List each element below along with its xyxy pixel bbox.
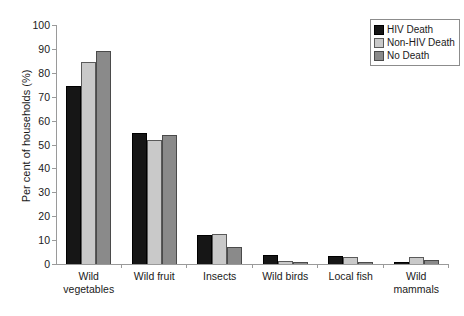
y-tick-70: 70 [22, 91, 56, 103]
x-tick-mark [121, 264, 122, 268]
bar-group-insects [187, 25, 253, 264]
x-label-line2: mammals [384, 283, 450, 296]
legend-swatch-icon [374, 38, 384, 48]
y-tick-40: 40 [22, 162, 56, 174]
x-tick-mark [317, 264, 318, 268]
bar-hiv-death-wild-birds [263, 255, 278, 264]
x-label-wild-vegetables: Wildvegetables [56, 270, 122, 295]
bar-chart: Per cent of households (%) 1009080706050… [0, 0, 464, 316]
y-tick-20: 20 [22, 210, 56, 222]
y-tick-100: 100 [22, 19, 56, 31]
bar-no-death-insects [227, 247, 242, 264]
x-axis-line [56, 264, 449, 265]
bar-group-wild-vegetables [56, 25, 122, 264]
bar-non-hiv-death-wild-vegetables [81, 62, 96, 264]
legend-label: Non-HIV Death [387, 37, 455, 48]
legend-item-hiv-death[interactable]: HIV Death [374, 23, 455, 36]
bar-hiv-death-local-fish [328, 256, 343, 264]
x-tick-mark [383, 264, 384, 268]
x-axis-labels: WildvegetablesWild fruitInsectsWild bird… [56, 270, 449, 295]
x-label-line1: Insects [203, 270, 236, 282]
x-label-local-fish: Local fish [318, 270, 384, 295]
bar-no-death-wild-vegetables [96, 51, 111, 264]
legend-item-no-death[interactable]: No Death [374, 49, 455, 62]
x-label-insects: Insects [187, 270, 253, 295]
legend-item-non-hiv-death[interactable]: Non-HIV Death [374, 36, 455, 49]
legend-swatch-icon [374, 25, 384, 35]
legend-swatch-icon [374, 51, 384, 61]
legend-label: HIV Death [387, 24, 433, 35]
y-tick-90: 90 [22, 43, 56, 55]
y-tick-10: 10 [22, 234, 56, 246]
x-label-line1: Wild birds [262, 270, 308, 282]
bar-no-death-wild-mammals [424, 260, 439, 264]
bar-group-wild-birds [253, 25, 319, 264]
bar-non-hiv-death-local-fish [343, 257, 358, 264]
bar-hiv-death-wild-mammals [394, 262, 409, 264]
bar-hiv-death-insects [197, 235, 212, 264]
x-tick-mark [186, 264, 187, 268]
bar-non-hiv-death-wild-birds [278, 261, 293, 264]
x-tick-mark [252, 264, 253, 268]
y-tick-60: 60 [22, 115, 56, 127]
bar-non-hiv-death-wild-fruit [147, 140, 162, 264]
x-label-wild-fruit: Wild fruit [122, 270, 188, 295]
bar-no-death-wild-fruit [162, 135, 177, 264]
bar-hiv-death-wild-fruit [132, 133, 147, 264]
bar-group-wild-fruit [122, 25, 188, 264]
x-label-line1: Wild [406, 270, 426, 282]
x-label-line1: Wild [79, 270, 99, 282]
bar-no-death-local-fish [358, 262, 373, 264]
x-label-line1: Local fish [329, 270, 373, 282]
x-label-line2: vegetables [56, 283, 122, 296]
bar-non-hiv-death-wild-mammals [409, 257, 424, 264]
y-tick-80: 80 [22, 67, 56, 79]
x-tick-mark [448, 264, 449, 268]
bar-hiv-death-wild-vegetables [66, 86, 81, 264]
bar-non-hiv-death-insects [212, 234, 227, 264]
y-tick-mark [52, 264, 56, 265]
y-tick-0: 0 [22, 258, 56, 270]
legend-label: No Death [387, 50, 429, 61]
chart-legend: HIV DeathNon-HIV DeathNo Death [370, 19, 460, 66]
x-label-wild-mammals: Wildmammals [384, 270, 450, 295]
x-label-wild-birds: Wild birds [253, 270, 319, 295]
y-tick-50: 50 [22, 139, 56, 151]
y-tick-30: 30 [22, 186, 56, 198]
x-label-line1: Wild fruit [134, 270, 175, 282]
bar-no-death-wild-birds [293, 262, 308, 264]
